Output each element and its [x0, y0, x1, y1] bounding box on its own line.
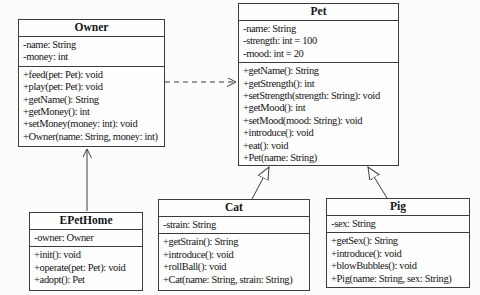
member-row: +adopt(): Pet [34, 274, 140, 286]
member-row: +introduce(): void [163, 249, 307, 261]
member-row: +play(pet: Pet): void [23, 81, 162, 93]
member-row: +getMood(): int [243, 102, 396, 114]
member-row: +Pig(name: String, sex: String) [331, 273, 467, 285]
class-title: Cat [159, 200, 309, 217]
methods-list: +getStrain(): String+introduce(): void+r… [159, 234, 309, 288]
member-row: -name: String [243, 23, 396, 35]
member-row: -sex: String [331, 218, 467, 230]
attributes-list: -name: String-money: int [19, 37, 164, 67]
class-box-pig: Pig -sex: String +getSex(): String+intro… [326, 198, 470, 288]
methods-list: +init(): void+operate(pet: Pet): void+ad… [30, 247, 142, 288]
generalization-arrow-pig-to-pet [368, 167, 387, 198]
member-row: +setMoney(money: int): void [23, 118, 162, 130]
attributes-list: -owner: Owner [30, 230, 142, 247]
member-row: +blowBubbles(): void [331, 260, 467, 272]
attributes-list: -sex: String [327, 216, 469, 233]
attributes-list: -strain: String [159, 217, 309, 234]
member-row: -strain: String [163, 219, 307, 231]
member-row: +rollBall(): void [163, 261, 307, 273]
generalization-arrow-cat-to-pet [252, 167, 269, 199]
methods-list: +getSex(): String+introduce(): void+blow… [327, 233, 469, 287]
class-box-owner: Owner -name: String-money: int +feed(pet… [18, 19, 165, 147]
member-row: -money: int [23, 51, 162, 63]
member-row: +introduce(): void [243, 127, 396, 139]
member-row: -strength: int = 100 [243, 35, 396, 47]
class-box-epethome: EPetHome -owner: Owner +init(): void+ope… [29, 212, 143, 291]
member-row: -mood: int = 20 [243, 48, 396, 60]
class-title: Pet [239, 4, 398, 21]
member-row: +introduce(): void [331, 248, 467, 260]
member-row: +feed(pet: Pet): void [23, 69, 162, 81]
methods-list: +feed(pet: Pet): void+play(pet: Pet): vo… [19, 67, 164, 145]
member-row: -name: String [23, 39, 162, 51]
member-row: +operate(pet: Pet): void [34, 262, 140, 274]
member-row: +setStrength(strength: String): void [243, 90, 396, 102]
member-row: +getStrength(): int [243, 78, 396, 90]
member-row: +getName(): String [23, 94, 162, 106]
member-row: +getSex(): String [331, 235, 467, 247]
attributes-list: -name: String-strength: int = 100-mood: … [239, 21, 398, 63]
member-row: +setMood(mood: String): void [243, 115, 396, 127]
member-row: +eat(): void [243, 140, 396, 152]
member-row: +Pet(name: String) [243, 152, 396, 164]
class-title: EPetHome [30, 213, 142, 230]
member-row: -owner: Owner [34, 232, 140, 244]
class-title: Owner [19, 20, 164, 37]
member-row: +getStrain(): String [163, 236, 307, 248]
member-row: +getMoney(): int [23, 106, 162, 118]
member-row: +getName(): String [243, 65, 396, 77]
member-row: +Owner(name: String, money: int) [23, 131, 162, 143]
member-row: +Cat(name: String, strain: String) [163, 274, 307, 286]
class-box-cat: Cat -strain: String +getStrain(): String… [158, 199, 310, 291]
class-box-pet: Pet -name: String-strength: int = 100-mo… [238, 3, 399, 166]
class-title: Pig [327, 199, 469, 216]
uml-class-diagram: Owner -name: String-money: int +feed(pet… [0, 0, 480, 295]
methods-list: +getName(): String+getStrength(): int+se… [239, 63, 398, 166]
member-row: +init(): void [34, 249, 140, 261]
